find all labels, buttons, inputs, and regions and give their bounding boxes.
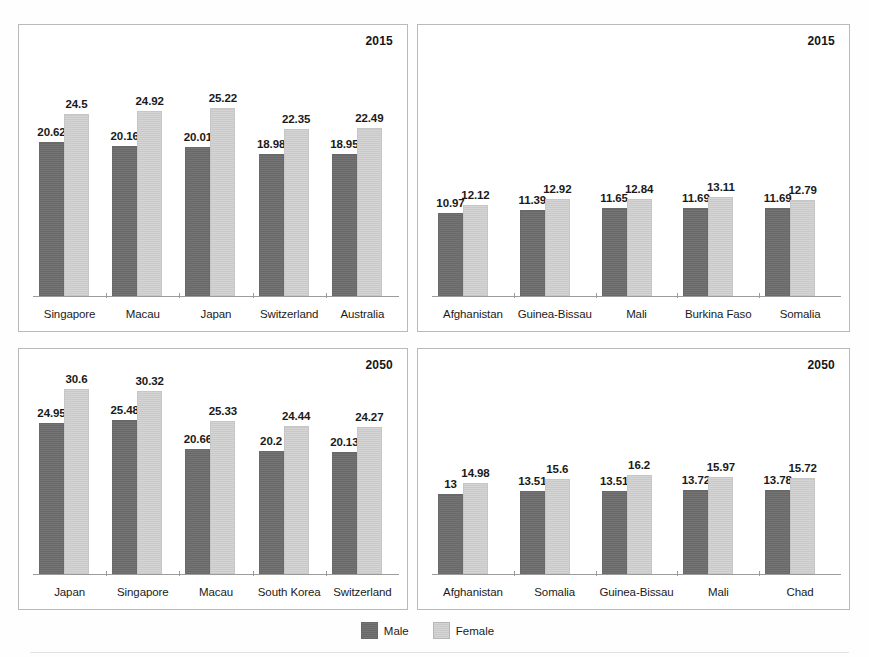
bar-female: 24.27 [357,427,382,574]
category-label: Australia [326,297,399,331]
legend-entry-male[interactable]: Male [361,622,409,639]
bar-value-label: 12.12 [461,189,489,201]
bar-male: 11.39 [520,210,545,296]
bar-groups: 24.9530.625.4830.3220.6625.3320.224.4420… [33,355,399,574]
category-labels: SingaporeMacauJapanSwitzerlandAustralia [33,297,399,331]
bar-male: 20.2 [259,451,284,574]
plot-area: 10.9712.1211.3912.9211.6512.8411.6913.11… [418,31,849,296]
category-labels: AfghanistanSomaliaGuinea-BissauMaliChad [432,575,841,609]
category-label: Switzerland [326,575,399,609]
bar-group: 20.1624.92 [106,31,179,296]
category-label: Afghanistan [432,297,514,331]
bar-groups: 1314.9813.5115.613.5116.213.7215.9713.78… [432,355,841,574]
bar-value-label: 15.72 [789,462,817,474]
bar-group: 24.9530.6 [33,355,106,574]
bar-male: 11.69 [765,208,790,296]
bar-group: 13.5115.6 [514,355,596,574]
bar-value-label: 14.98 [461,467,489,479]
bar-female: 25.22 [210,108,235,296]
legend-label: Female [456,625,494,637]
category-label: Singapore [106,575,179,609]
bar-value-label: 24.44 [282,410,310,422]
bar-female: 12.12 [463,205,488,296]
legend-entry-female[interactable]: Female [433,622,494,639]
bar-value-label: 11.39 [518,194,546,206]
category-label: Japan [179,297,252,331]
bar-value-label: 20.2 [260,435,282,447]
bar-female: 12.92 [545,199,570,296]
bar-group: 20.6224.5 [33,31,106,296]
bar-value-label: 24.92 [136,95,164,107]
bar-female: 15.72 [790,478,815,574]
bar-male: 18.98 [259,154,284,296]
bar-female: 14.98 [463,483,488,574]
category-label: Burkina Faso [677,297,759,331]
bar-female: 13.11 [708,197,733,296]
category-label: Mali [596,297,678,331]
bar-value-label: 12.79 [789,184,817,196]
bar-value-label: 25.22 [209,92,237,104]
bar-value-label: 13.51 [518,475,546,487]
category-label: Mali [677,575,759,609]
bar-male: 20.13 [332,452,357,574]
page-rule [30,652,849,653]
bar-value-label: 13.11 [707,181,735,193]
bar-value-label: 11.65 [600,192,628,204]
bar-male: 20.01 [185,147,210,296]
bar-group: 13.7215.97 [677,355,759,574]
bar-male: 13 [438,494,463,574]
bar-group: 20.0125.22 [179,31,252,296]
bar-value-label: 20.13 [330,436,358,448]
bar-value-label: 20.62 [37,126,65,138]
bar-value-label: 13.78 [764,474,792,486]
category-label: Chad [759,575,841,609]
bar-female: 24.44 [284,426,309,574]
bar-value-label: 20.66 [184,433,212,445]
bar-group: 11.6512.84 [596,31,678,296]
bar-group: 18.9522.49 [326,31,399,296]
bar-male: 13.51 [520,491,545,574]
bar-group: 1314.98 [432,355,514,574]
chart-page: 2015 20.6224.520.1624.9220.0125.2218.982… [0,0,869,657]
bar-value-label: 30.32 [136,375,164,387]
category-label: Switzerland [253,297,326,331]
bar-value-label: 20.16 [111,130,139,142]
bar-group: 11.6912.79 [759,31,841,296]
bar-value-label: 24.27 [355,411,383,423]
bar-group: 20.1324.27 [326,355,399,574]
bar-group: 18.9822.35 [253,31,326,296]
bar-group: 25.4830.32 [106,355,179,574]
bar-group: 11.6913.11 [677,31,759,296]
category-labels: AfghanistanGuinea-BissauMaliBurkina Faso… [432,297,841,331]
category-label: Japan [33,575,106,609]
bar-value-label: 13 [444,478,457,490]
bar-value-label: 16.2 [628,459,650,471]
category-label: Guinea-Bissau [514,297,596,331]
bar-value-label: 22.49 [355,112,383,124]
bar-group: 13.7815.72 [759,355,841,574]
bar-value-label: 20.01 [184,131,212,143]
bar-male: 10.97 [438,213,463,296]
legend-swatch-female [433,622,450,639]
category-label: Afghanistan [432,575,514,609]
bar-groups: 20.6224.520.1624.9220.0125.2218.9822.351… [33,31,399,296]
bar-value-label: 18.98 [257,138,285,150]
legend-label: Male [384,625,409,637]
bar-value-label: 11.69 [682,192,710,204]
panel-2015-highest: 2015 20.6224.520.1624.9220.0125.2218.982… [18,24,408,332]
bar-male: 11.69 [683,208,708,296]
bar-female: 22.35 [284,129,309,296]
bar-female: 25.33 [210,421,235,574]
category-label: Singapore [33,297,106,331]
bar-female: 22.49 [357,128,382,296]
category-label: Somalia [759,297,841,331]
bar-value-label: 13.72 [682,474,710,486]
category-label: Guinea-Bissau [596,575,678,609]
bar-male: 13.78 [765,490,790,574]
category-label: Somalia [514,575,596,609]
bar-male: 24.95 [39,423,64,574]
bar-group: 20.6625.33 [179,355,252,574]
bar-value-label: 25.33 [209,405,237,417]
bar-female: 30.6 [64,389,89,574]
bar-male: 25.48 [112,420,137,574]
